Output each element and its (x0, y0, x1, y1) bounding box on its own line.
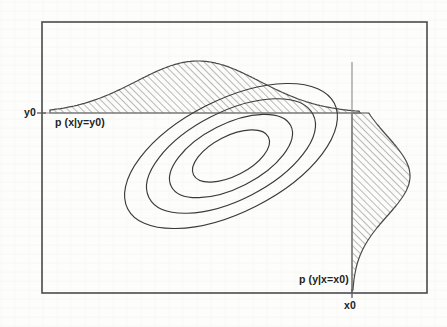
axis-label-y0: y0 (24, 106, 36, 118)
contour-level-4 (184, 119, 277, 193)
label-conditional-x-given-y: p (x|y=y0) (55, 116, 105, 128)
contour-level-3 (157, 97, 305, 215)
label-conditional-y-given-x: p (y|x=x0) (299, 273, 349, 285)
axis-label-x0: x0 (344, 299, 356, 311)
gaussian-contour-plot (0, 0, 447, 327)
figure-container: y0 x0 p (x|y=y0) p (y|x=x0) (0, 0, 447, 327)
marginal-density-y-given-x (352, 113, 410, 291)
